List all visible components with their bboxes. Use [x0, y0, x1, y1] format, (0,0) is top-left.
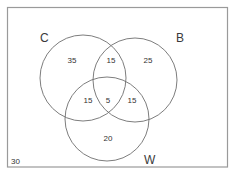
set-label-w: W — [144, 153, 156, 167]
set-label-c: C — [40, 31, 49, 45]
circle-w — [65, 77, 149, 161]
region-b-only: 25 — [144, 56, 153, 65]
region-b-and-w: 15 — [128, 96, 137, 105]
venn-diagram: C B W 35 15 25 15 5 15 20 30 — [0, 0, 230, 174]
circle-c — [40, 35, 126, 121]
region-c-only: 35 — [68, 56, 77, 65]
universe-value: 30 — [11, 157, 20, 166]
region-c-and-w: 15 — [84, 96, 93, 105]
set-label-b: B — [176, 31, 184, 45]
region-w-only: 20 — [104, 134, 113, 143]
circle-b — [93, 38, 177, 122]
region-c-and-b: 15 — [107, 56, 116, 65]
region-all-three: 5 — [106, 96, 111, 105]
